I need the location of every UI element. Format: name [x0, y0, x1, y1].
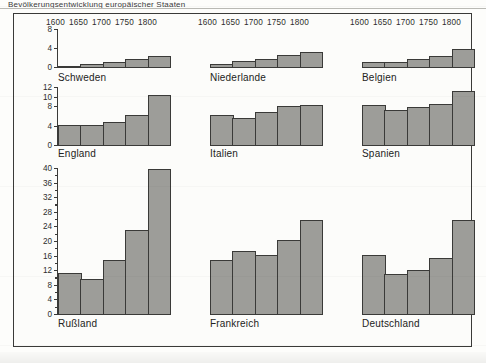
y-axis-minor-tick: [55, 307, 57, 308]
bar: [232, 118, 256, 146]
y-axis-tick-label: 4: [36, 296, 52, 304]
panel-caption: Frankreich: [210, 318, 259, 330]
year-label: 1750: [417, 18, 440, 28]
panel-caption: Rußland: [58, 318, 97, 330]
y-axis-minor-tick: [55, 175, 57, 176]
y-axis-tick-label: 12: [36, 267, 52, 275]
y-axis-tick: [54, 241, 57, 242]
bar: [148, 56, 172, 68]
scan-artifact: [0, 96, 486, 97]
year-label: 1800: [288, 18, 311, 28]
y-axis-tick-label: 20: [36, 238, 52, 246]
y-axis-minor-tick: [55, 234, 57, 235]
plot-belgien: [362, 30, 474, 68]
y-axis-tick-label: 8: [36, 103, 52, 111]
y-axis-tick-label: 8: [36, 282, 52, 290]
y-axis-tick: [54, 29, 57, 30]
panel-england: 0481012 England: [30, 88, 170, 166]
bar: [277, 55, 301, 68]
plot-deutschland: [362, 169, 474, 315]
y-axis-tick: [54, 197, 57, 198]
y-axis-tick-label: 0: [36, 142, 52, 150]
year-label: 1600: [196, 18, 219, 28]
bar: [125, 115, 149, 146]
y-axis-tick-label: 0: [36, 311, 52, 319]
bar: [300, 105, 324, 146]
panel-caption: Italien: [210, 148, 238, 160]
year-header-col1: 16001650170017501800: [44, 18, 159, 28]
y-axis-minor-tick: [55, 219, 57, 220]
bar: [58, 125, 82, 146]
y-axis-tick-label: 0: [36, 64, 52, 72]
year-label: 1600: [348, 18, 371, 28]
panel-caption: Schweden: [58, 72, 106, 84]
y-axis-tick: [54, 183, 57, 184]
plot-russland: 0481216202428323640: [58, 169, 170, 315]
bar: [80, 64, 104, 68]
year-label: 1750: [113, 18, 136, 28]
bar: [58, 66, 82, 68]
y-axis-minor-tick: [55, 204, 57, 205]
panel-caption: Belgien: [362, 72, 397, 84]
plot-niederlande: [210, 30, 322, 68]
year-label: 1650: [371, 18, 394, 28]
bar-group: [210, 169, 322, 315]
panel-spanien: Spanien: [334, 88, 474, 166]
panel-frankreich: Frankreich: [182, 169, 322, 344]
y-axis-tick: [54, 285, 57, 286]
bar: [232, 251, 256, 315]
y-axis-minor-tick: [55, 292, 57, 293]
panel-russland: 0481216202428323640 Rußland: [30, 169, 170, 344]
y-axis-tick: [54, 256, 57, 257]
bar: [255, 255, 279, 315]
year-label: 1650: [67, 18, 90, 28]
panel-deutschland: Deutschland: [334, 169, 474, 344]
year-label: 1800: [440, 18, 463, 28]
y-axis-tick-label: 32: [36, 194, 52, 202]
y-axis-tick-label: 16: [36, 253, 52, 261]
year-label: 1800: [136, 18, 159, 28]
bar: [232, 61, 256, 68]
bar: [452, 220, 476, 315]
bar: [103, 122, 127, 146]
y-axis-minor-tick: [55, 248, 57, 249]
bar: [103, 260, 127, 315]
top-rule: [0, 8, 486, 9]
bar: [277, 106, 301, 146]
bar: [80, 279, 104, 316]
scan-artifact: [0, 186, 486, 187]
bar: [429, 104, 453, 146]
bar: [210, 260, 234, 315]
bar: [300, 220, 324, 315]
year-label: 1650: [219, 18, 242, 28]
year-header-col3: 16001650170017501800: [348, 18, 463, 28]
y-axis-tick-label: 12: [36, 84, 52, 92]
bar: [429, 56, 453, 68]
y-axis-tick: [54, 314, 57, 315]
bar-group: [58, 169, 170, 315]
scan-artifact: [0, 276, 486, 277]
bar: [362, 255, 386, 315]
bar: [58, 273, 82, 315]
plot-frankreich: [210, 169, 322, 315]
y-axis-tick: [54, 106, 57, 107]
panel-belgien: Belgien: [334, 30, 474, 92]
page-edge-shadow: [0, 352, 486, 363]
bar: [452, 91, 476, 146]
y-axis-tick: [54, 270, 57, 271]
y-axis-tick: [54, 299, 57, 300]
bar-group: [58, 30, 170, 68]
y-axis-tick: [54, 145, 57, 146]
y-axis-minor-tick: [55, 190, 57, 191]
panel-caption: Niederlande: [210, 72, 266, 84]
y-axis-tick: [54, 67, 57, 68]
year-label: 1750: [265, 18, 288, 28]
bar: [148, 95, 172, 146]
bar: [255, 112, 279, 146]
scan-artifact: [0, 6, 486, 7]
bar-group: [362, 169, 474, 315]
panel-caption: England: [58, 148, 96, 160]
y-axis-tick-label: 28: [36, 209, 52, 217]
bar: [103, 62, 127, 68]
y-axis-tick-label: 8: [36, 26, 52, 34]
